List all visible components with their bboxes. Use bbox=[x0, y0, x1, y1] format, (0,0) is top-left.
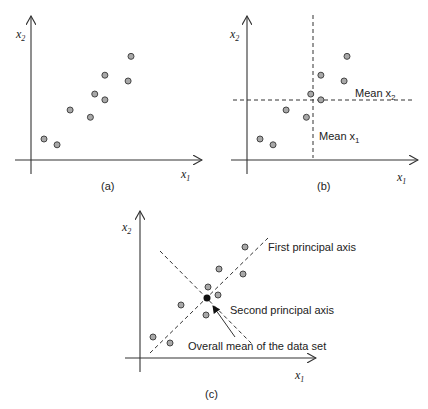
panel-b: x2 x1 Mean x2 Mean x1 (b) bbox=[229, 15, 418, 192]
data-point bbox=[318, 72, 324, 78]
data-point bbox=[67, 107, 73, 113]
data-point bbox=[270, 142, 276, 148]
second-axis-label: Second principal axis bbox=[230, 304, 334, 316]
panel-a: x2 x1 (a) bbox=[15, 16, 202, 192]
data-point bbox=[150, 334, 156, 340]
data-point bbox=[242, 244, 248, 250]
pca-figure: x2 x1 (a) x2 x1 Mean x2 Mean x1 (b) x2 x… bbox=[0, 0, 428, 409]
y-axis-label: x2 bbox=[15, 27, 25, 43]
panel-caption: (c) bbox=[205, 388, 218, 400]
x-axis-label: x1 bbox=[396, 170, 406, 186]
data-points bbox=[150, 244, 248, 346]
panel-caption: (b) bbox=[317, 180, 330, 192]
x-axis-label: x1 bbox=[294, 368, 304, 384]
data-point bbox=[341, 78, 347, 84]
data-point bbox=[41, 136, 47, 142]
first-axis-label: First principal axis bbox=[268, 241, 357, 253]
data-point bbox=[167, 340, 173, 346]
data-point bbox=[303, 114, 309, 120]
panel-c: x2 x1 First principal axis Second princi… bbox=[121, 211, 357, 400]
data-point bbox=[128, 53, 134, 59]
x-axis-label: x1 bbox=[180, 167, 190, 183]
mean-x1-label: Mean x1 bbox=[319, 130, 360, 145]
data-point bbox=[205, 284, 211, 290]
data-point bbox=[92, 91, 98, 97]
data-point bbox=[102, 97, 108, 103]
data-point bbox=[178, 302, 184, 308]
data-point bbox=[125, 78, 131, 84]
data-point bbox=[216, 266, 222, 272]
data-point bbox=[318, 97, 324, 103]
panel-caption: (a) bbox=[101, 180, 114, 192]
mean-label: Overall mean of the data set bbox=[188, 340, 326, 352]
y-axis-label: x2 bbox=[229, 27, 239, 43]
data-point bbox=[87, 114, 93, 120]
data-point bbox=[283, 107, 289, 113]
overall-mean-point bbox=[204, 295, 211, 302]
data-point bbox=[102, 72, 108, 78]
y-axis-label: x2 bbox=[121, 220, 131, 236]
data-point bbox=[203, 312, 209, 318]
data-point bbox=[344, 53, 350, 59]
data-point bbox=[308, 91, 314, 97]
data-point bbox=[257, 136, 263, 142]
data-points bbox=[41, 53, 134, 147]
data-point bbox=[215, 292, 221, 298]
data-point bbox=[54, 142, 60, 148]
data-point bbox=[240, 271, 246, 277]
